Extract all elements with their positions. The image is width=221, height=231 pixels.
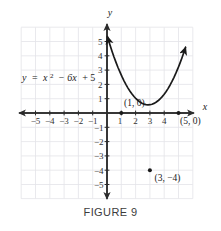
x-tick-label: −4 (45, 116, 55, 126)
x-tick-label: −5 (31, 116, 41, 126)
label-root-1: (1, 0) (124, 98, 145, 109)
svg-text:y = x: y = x 2 − 6x + 5 (21, 69, 95, 84)
y-tick-label: 3 (98, 65, 103, 75)
equation-label: y = x 2 − 6x + 5 (21, 69, 95, 84)
y-tick-label: −1 (94, 123, 104, 133)
y-tick-label: 1 (98, 94, 103, 104)
y-tick-label: 2 (98, 80, 103, 90)
x-tick-label: 1 (118, 116, 123, 126)
x-tick-label: 4 (162, 116, 167, 126)
x-tick-label: 3 (148, 116, 153, 126)
equation-term-3: + 5 (82, 72, 95, 83)
x-axis-label: x (202, 101, 208, 112)
equation-term-2: − 6x (58, 72, 77, 83)
y-tick-label: −2 (94, 137, 104, 147)
y-tick-label: 5 (98, 37, 103, 47)
figure-caption: FIGURE 9 (0, 206, 221, 218)
equation-equals: = (32, 72, 38, 83)
y-tick-label: −4 (94, 166, 104, 176)
x-tick-label: −3 (59, 116, 69, 126)
point-root-1 (119, 111, 123, 115)
coordinate-graph: −5 −4 −3 −2 −1 1 2 3 4 5 4 3 2 1 −1 −2 −… (0, 0, 221, 200)
graph-plot-area: −5 −4 −3 −2 −1 1 2 3 4 5 4 3 2 1 −1 −2 −… (0, 0, 221, 200)
equation-lhs: y (21, 72, 27, 83)
y-tick-label: −3 (94, 151, 104, 161)
equation-exponent: 2 (50, 72, 54, 80)
point-vertex (148, 168, 152, 172)
label-vertex: (3, −4) (155, 173, 181, 184)
x-tick-label: 2 (133, 116, 138, 126)
y-tick-label: −5 (94, 180, 104, 190)
label-root-2: (5, 0) (180, 116, 201, 127)
parabola-curve (107, 37, 185, 105)
x-tick-label: −2 (74, 116, 84, 126)
equation-term-1: x (42, 72, 48, 83)
figure-container: −5 −4 −3 −2 −1 1 2 3 4 5 4 3 2 1 −1 −2 −… (0, 0, 221, 231)
y-axis-label: y (107, 7, 113, 18)
point-root-2 (177, 111, 181, 115)
y-tick-label: 4 (98, 51, 103, 61)
